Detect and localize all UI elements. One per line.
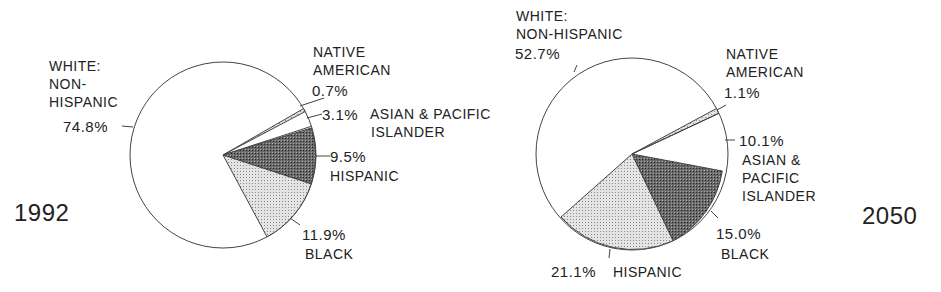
pie-2050 <box>536 58 735 258</box>
label-asian-2050-l3: ISLANDER <box>742 188 816 205</box>
label-hispanic-2050-l1: HISPANIC <box>613 264 682 281</box>
label-white-2050-pct: 52.7% <box>515 45 560 62</box>
label-asian-2050-l1: ASIAN & <box>742 152 801 169</box>
label-asian-1992-pct: 3.1% <box>322 106 358 123</box>
label-asian-1992-l2: ISLANDER <box>371 124 445 141</box>
label-hispanic-1992-l1: HISPANIC <box>330 168 399 185</box>
label-native-1992-pct: 0.7% <box>312 82 348 99</box>
label-black-2050-pct: 15.0% <box>716 225 761 242</box>
pie-charts <box>0 0 941 292</box>
label-hispanic-1992-pct: 9.5% <box>330 148 366 165</box>
label-white-1992-pct: 74.8% <box>63 118 108 135</box>
label-white-1992-l3: HISPANIC <box>49 94 118 111</box>
label-black-1992-pct: 11.9% <box>302 226 346 243</box>
label-asian-1992-l1: ASIAN & PACIFIC <box>370 106 491 123</box>
label-white-2050-l1: WHITE: <box>516 8 568 25</box>
label-native-2050-pct: 1.1% <box>724 84 760 101</box>
label-native-2050-l2: AMERICAN <box>726 64 804 81</box>
label-native-1992-l2: AMERICAN <box>313 62 391 79</box>
label-native-2050-l1: NATIVE <box>726 46 779 63</box>
label-hispanic-2050-pct: 21.1% <box>551 263 596 280</box>
label-black-2050-l1: BLACK <box>721 246 769 263</box>
label-asian-2050-pct: 10.1% <box>739 132 784 149</box>
label-native-1992-l1: NATIVE <box>313 44 366 61</box>
label-white-1992-l1: WHITE: <box>49 58 101 75</box>
label-black-1992-l1: BLACK <box>305 246 353 263</box>
label-white-2050-l2: NON-HISPANIC <box>516 26 623 43</box>
label-asian-2050-l2: PACIFIC <box>742 170 800 187</box>
year-label-1992: 1992 <box>14 199 69 227</box>
year-label-2050: 2050 <box>862 202 917 230</box>
pie-1992 <box>122 62 330 248</box>
label-white-1992-l2: NON- <box>49 76 87 93</box>
